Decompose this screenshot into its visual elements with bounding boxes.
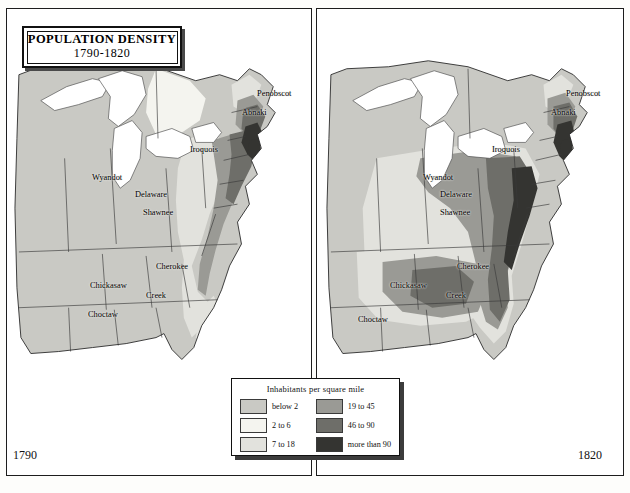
tribe-label-creek: Creek xyxy=(146,291,166,300)
legend-swatch xyxy=(240,399,267,414)
tribe-label-shawnee: Shawnee xyxy=(440,208,470,217)
legend-swatch xyxy=(316,399,343,414)
tribe-label-abnaki: Abnaki xyxy=(551,108,576,117)
legend-item: more than 90 xyxy=(316,436,391,453)
page-title: POPULATION DENSITY xyxy=(28,33,176,47)
legend-swatch xyxy=(316,418,343,433)
tribe-label-wyandot: Wyandot xyxy=(92,173,122,182)
legend-item: 19 to 45 xyxy=(316,398,391,415)
tribe-label-cherokee: Cherokee xyxy=(156,262,188,271)
legend-item: 7 to 18 xyxy=(240,436,310,453)
legend-swatch xyxy=(240,437,267,452)
title-date-range: 1790-1820 xyxy=(74,47,131,61)
tribe-label-delaware: Delaware xyxy=(135,190,167,199)
tribe-label-iroquois: Iroquois xyxy=(492,145,520,154)
tribe-label-abnaki: Abnaki xyxy=(242,108,267,117)
legend-label: 7 to 18 xyxy=(272,440,295,449)
map-figure: PenobscotAbnakiIroquoisWyandotDelawareSh… xyxy=(0,0,630,493)
legend-item: below 2 xyxy=(240,398,310,415)
year-label-1790: 1790 xyxy=(13,448,37,463)
tribe-label-penobscot: Penobscot xyxy=(566,89,600,98)
tribe-label-delaware: Delaware xyxy=(440,190,472,199)
tribe-label-shawnee: Shawnee xyxy=(143,208,173,217)
legend-items: below 219 to 452 to 646 to 907 to 18more… xyxy=(240,398,391,453)
year-label-1820: 1820 xyxy=(578,448,602,463)
legend-label: below 2 xyxy=(272,402,298,411)
legend-swatch xyxy=(240,418,267,433)
legend-item: 2 to 6 xyxy=(240,417,310,434)
tribe-label-chickasaw: Chickasaw xyxy=(390,281,427,290)
legend-heading: Inhabitants per square mile xyxy=(240,384,391,394)
legend-label: 2 to 6 xyxy=(272,421,291,430)
tribe-label-chickasaw: Chickasaw xyxy=(90,281,127,290)
legend-item: 46 to 90 xyxy=(316,417,391,434)
tribe-label-wyandot: Wyandot xyxy=(423,173,453,182)
title-cartouche: POPULATION DENSITY 1790-1820 xyxy=(22,26,182,68)
legend-label: 19 to 45 xyxy=(348,402,375,411)
tribe-label-cherokee: Cherokee xyxy=(457,262,489,271)
legend-label: more than 90 xyxy=(348,440,391,449)
map-legend: Inhabitants per square mile below 219 to… xyxy=(231,378,400,456)
legend-label: 46 to 90 xyxy=(348,421,375,430)
legend-swatch xyxy=(316,437,343,452)
tribe-label-creek: Creek xyxy=(446,291,466,300)
tribe-label-choctaw: Choctaw xyxy=(88,310,118,319)
tribe-label-iroquois: Iroquois xyxy=(190,145,218,154)
tribe-label-choctaw: Choctaw xyxy=(358,315,388,324)
tribe-label-penobscot: Penobscot xyxy=(257,89,291,98)
